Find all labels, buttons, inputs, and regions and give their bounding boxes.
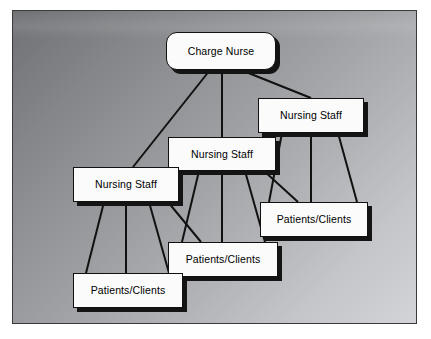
connector-line [338,133,357,202]
connector-line [182,171,199,242]
node-label: Charge Nurse [188,46,255,57]
node-patients-left[interactable]: Patients/Clients [73,273,183,308]
node-charge-nurse[interactable]: Charge Nurse [166,32,276,70]
node-nursing-staff-right[interactable]: Nursing Staff [258,98,364,133]
node-label: Patients/Clients [277,214,352,225]
node-nursing-staff-mid[interactable]: Nursing Staff [168,137,276,171]
node-patients-right[interactable]: Patients/Clients [260,202,368,237]
node-nursing-staff-left[interactable]: Nursing Staff [73,167,179,202]
connector-line [86,202,104,273]
diagram-root: Charge NurseNursing StaffNursing StaffNu… [0,0,431,339]
connector-line [241,70,311,98]
connector-line [168,202,201,242]
node-label: Nursing Staff [280,110,342,121]
node-patients-mid[interactable]: Patients/Clients [168,242,278,277]
node-label: Patients/Clients [186,254,261,265]
connector-line [149,202,169,273]
node-label: Nursing Staff [191,149,253,160]
node-label: Nursing Staff [95,179,157,190]
diagram-panel: Charge NurseNursing StaffNursing StaffNu… [12,10,417,324]
node-label: Patients/Clients [91,285,166,296]
